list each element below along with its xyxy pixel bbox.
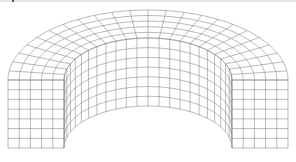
half-annulus-wireframe-mesh bbox=[0, 0, 296, 162]
left-end-face-grid bbox=[8, 80, 64, 148]
inner-wall-grid bbox=[64, 38, 232, 148]
right-end-face-grid bbox=[232, 80, 288, 148]
